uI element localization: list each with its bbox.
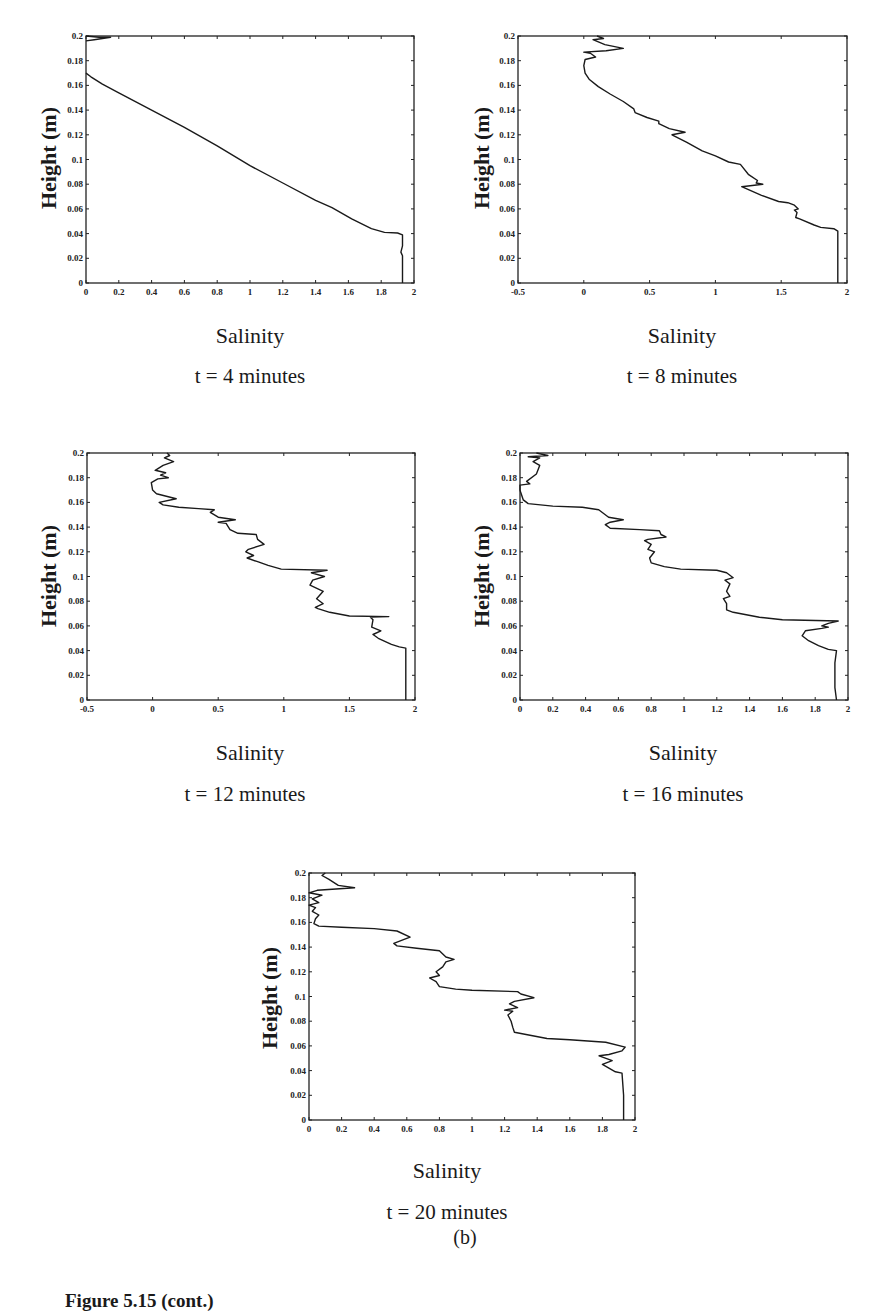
x-tick-label: 1.2 (277, 287, 289, 297)
y-tick-label: 0.12 (501, 547, 517, 557)
y-tick-label: 0.14 (68, 522, 84, 532)
y-tick-label: 0.1 (504, 155, 516, 165)
y-axis-label: Height (m) (469, 98, 495, 218)
plot-area: -0.500.511.5200.020.040.060.080.10.120.1… (440, 0, 879, 300)
salinity-profile-line (520, 453, 838, 700)
y-tick-label: 0 (80, 695, 85, 705)
panel-time-label: t = 4 minutes (130, 364, 370, 389)
y-tick-label: 0.04 (499, 229, 515, 239)
y-tick-label: 0.18 (501, 473, 517, 483)
axes-frame (86, 36, 414, 283)
y-tick-label: 0.2 (506, 448, 518, 458)
panel-time-label: t = 12 minutes (125, 782, 365, 807)
y-tick-label: 0.12 (67, 130, 83, 140)
y-tick-label: 0.06 (67, 204, 83, 214)
x-tick-label: 0 (84, 287, 89, 297)
y-tick-label: 0.06 (290, 1041, 306, 1051)
x-tick-label: 1.5 (344, 704, 356, 714)
salinity-profile-line (86, 73, 403, 283)
y-tick-label: 0.18 (67, 56, 83, 66)
x-tick-label: 0.2 (336, 1124, 348, 1134)
x-tick-label: 1.8 (597, 1124, 609, 1134)
x-tick-label: 0.6 (613, 704, 625, 714)
y-tick-label: 0.2 (72, 31, 84, 41)
y-tick-label: 0.14 (290, 942, 306, 952)
panel-time-label: t = 20 minutes (327, 1200, 567, 1225)
y-tick-label: 0.12 (68, 547, 84, 557)
chart-panel-t12: -0.500.511.5200.020.040.060.080.10.120.1… (0, 410, 440, 810)
y-tick-label: 0.06 (499, 204, 515, 214)
chart-panel-t16: 00.20.40.60.811.21.41.61.8200.020.040.06… (440, 410, 879, 810)
y-tick-label: 0.14 (499, 105, 515, 115)
figure-caption: Figure 5.15 (cont.) (65, 1290, 213, 1312)
y-tick-label: 0 (513, 695, 518, 705)
x-axis-label: Salinity (347, 1158, 547, 1184)
y-tick-label: 0.08 (68, 596, 84, 606)
x-tick-label: 1 (682, 704, 687, 714)
subfigure-label: (b) (415, 1226, 515, 1249)
y-tick-label: 0.02 (290, 1090, 306, 1100)
x-tick-label: 0 (582, 287, 587, 297)
y-tick-label: 0.2 (504, 31, 516, 41)
x-tick-label: 0.4 (369, 1124, 381, 1134)
y-tick-label: 0.08 (499, 179, 515, 189)
x-axis-label: Salinity (583, 740, 783, 766)
axes-frame (87, 453, 415, 700)
x-tick-label: 0.8 (646, 704, 658, 714)
plot-area: 00.20.40.60.811.21.41.61.8200.020.040.06… (0, 0, 440, 300)
x-tick-label: -0.5 (80, 704, 95, 714)
y-tick-label: 0.02 (67, 253, 83, 263)
x-axis-label: Salinity (582, 323, 782, 349)
y-tick-label: 0.08 (290, 1016, 306, 1026)
axes-frame (518, 36, 847, 283)
y-tick-label: 0.02 (68, 670, 84, 680)
x-tick-label: 0.5 (644, 287, 656, 297)
axes-frame (520, 453, 848, 700)
x-axis-label: Salinity (150, 740, 350, 766)
y-tick-label: 0.18 (68, 473, 84, 483)
y-tick-label: 0.04 (68, 646, 84, 656)
y-axis-label: Height (m) (469, 516, 495, 636)
chart-panel-t20: 00.20.40.60.811.21.41.61.8200.020.040.06… (220, 820, 660, 1240)
y-tick-label: 0.2 (73, 448, 85, 458)
y-tick-label: 0.02 (499, 253, 515, 263)
salinity-profile-line (309, 873, 625, 1120)
x-tick-label: 0 (150, 704, 155, 714)
y-tick-label: 0 (79, 278, 84, 288)
x-tick-label: 1.6 (564, 1124, 576, 1134)
x-axis-label: Salinity (150, 323, 350, 349)
salinity-profile-line (151, 453, 405, 700)
x-tick-label: 1.4 (310, 287, 322, 297)
x-tick-label: 2 (633, 1124, 638, 1134)
x-tick-label: 1.2 (499, 1124, 511, 1134)
x-tick-label: 0.8 (212, 287, 224, 297)
x-tick-label: 2 (845, 287, 850, 297)
y-tick-label: 0.16 (68, 497, 84, 507)
x-tick-label: 1.6 (343, 287, 355, 297)
y-tick-label: 0.1 (295, 992, 307, 1002)
y-tick-label: 0.04 (501, 646, 517, 656)
x-tick-label: 0.4 (146, 287, 158, 297)
x-tick-label: 1.5 (776, 287, 788, 297)
x-tick-label: 0.2 (113, 287, 125, 297)
y-tick-label: 0.14 (67, 105, 83, 115)
axes-frame (309, 873, 635, 1120)
plot-area: -0.500.511.5200.020.040.060.080.10.120.1… (0, 410, 440, 710)
x-tick-label: 1.4 (744, 704, 756, 714)
y-tick-label: 0.2 (295, 868, 307, 878)
x-tick-label: 1.4 (532, 1124, 544, 1134)
x-tick-label: 1 (713, 287, 718, 297)
y-tick-label: 0.16 (67, 80, 83, 90)
x-tick-label: 0.4 (580, 704, 592, 714)
panel-time-label: t = 8 minutes (562, 364, 802, 389)
y-tick-label: 0.16 (501, 497, 517, 507)
x-tick-label: 0.6 (179, 287, 191, 297)
x-tick-label: 0.6 (401, 1124, 413, 1134)
y-tick-label: 0.1 (72, 155, 84, 165)
salinity-profile-line (86, 36, 111, 41)
y-tick-label: 0 (302, 1115, 307, 1125)
y-tick-label: 0.18 (499, 56, 515, 66)
plot-area: 00.20.40.60.811.21.41.61.8200.020.040.06… (440, 410, 879, 710)
y-tick-label: 0.02 (501, 670, 517, 680)
y-tick-label: 0.04 (290, 1066, 306, 1076)
